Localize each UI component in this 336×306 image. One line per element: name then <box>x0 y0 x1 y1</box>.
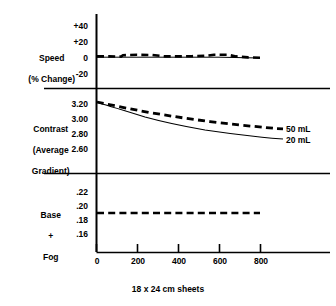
basefog-ytick-16: .16 <box>58 229 88 239</box>
basefog-ytick-22: .22 <box>58 187 88 197</box>
panel-contrast-plot <box>97 102 283 139</box>
speed-ytick-plus20: +20 <box>58 37 88 47</box>
contrast-ytick-280: 2.80 <box>56 129 88 139</box>
contrast-series-50ml <box>97 102 277 129</box>
x-tick-label-400: 400 <box>163 256 195 266</box>
x-tick-label-0: 0 <box>82 256 112 266</box>
speed-series-50ml <box>97 55 260 58</box>
x-tick-label-800: 800 <box>245 256 277 266</box>
speed-ytick-plus40: +40 <box>58 21 88 31</box>
contrast-ytick-300: 3.00 <box>56 114 88 124</box>
basefog-ytick-18: .18 <box>58 215 88 225</box>
contrast-ytick-260: 2.60 <box>56 144 88 154</box>
legend-label-50ml: 50 mL <box>286 124 311 134</box>
legend-label-20ml: 20 mL <box>286 135 311 145</box>
speed-ytick-zero: 0 <box>58 53 88 63</box>
speed-ytick-minus20: -20 <box>58 69 88 79</box>
x-tick-label-600: 600 <box>204 256 236 266</box>
panel-basefog-axis-label-line3: Fog <box>43 252 59 262</box>
panel-speed-plot <box>97 55 260 58</box>
chart-figure: Speed (% Change) +40 +20 0 -20 Contrast … <box>0 0 336 306</box>
legend-leader-20ml <box>272 138 283 139</box>
panel-basefog-axis-label-line2: + <box>48 231 53 241</box>
contrast-ytick-320: 3.20 <box>56 99 88 109</box>
basefog-ytick-20: .20 <box>58 201 88 211</box>
x-axis-ticks <box>97 244 261 252</box>
x-tick-label-200: 200 <box>122 256 154 266</box>
panel-contrast-axis-label-line3: Gradient) <box>32 166 70 176</box>
x-axis-caption: 18 x 24 cm sheets <box>0 284 336 294</box>
